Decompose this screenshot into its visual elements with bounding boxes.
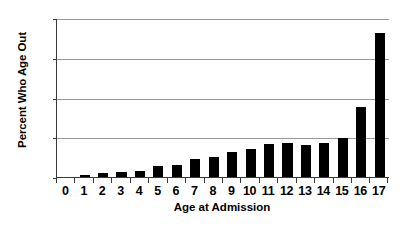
x-axis-tick-label: 10	[240, 184, 258, 200]
x-axis-tick-label: 13	[296, 184, 314, 200]
x-axis-tick-mark	[333, 178, 334, 183]
bar	[80, 175, 90, 177]
x-axis-tick-label: 7	[185, 184, 203, 200]
bar-slot	[205, 19, 223, 177]
bar	[246, 149, 256, 177]
x-axis-tick-mark	[259, 178, 260, 183]
plot-area	[56, 19, 389, 178]
bar-slot	[241, 19, 259, 177]
bar-slot	[131, 19, 149, 177]
x-axis-tick-label: 11	[259, 184, 277, 200]
bar	[319, 143, 329, 177]
x-axis-tick-mark	[167, 178, 168, 183]
x-axis-tick-label: 9	[222, 184, 240, 200]
x-axis-tick-mark	[93, 178, 94, 183]
x-axis-tick-label: 16	[351, 184, 369, 200]
x-axis-tick-label: 15	[333, 184, 351, 200]
bar-slot	[352, 19, 370, 177]
x-axis-tick-mark	[277, 178, 278, 183]
bar-slot	[297, 19, 315, 177]
x-axis-title: Age at Admission	[56, 201, 388, 213]
x-axis-tick-label: 14	[314, 184, 332, 200]
x-axis-tick-labels: 01234567891011121314151617	[56, 184, 388, 200]
bar-slot	[75, 19, 93, 177]
x-axis-tick-label: 12	[277, 184, 295, 200]
bar	[153, 166, 163, 177]
x-axis-tick-mark	[314, 178, 315, 183]
chart-figure: Percent Who Age Out 015304560 0123456789…	[0, 0, 403, 236]
bar	[264, 144, 274, 177]
bar-slot	[278, 19, 296, 177]
x-axis-tick-mark	[351, 178, 352, 183]
bar	[98, 173, 108, 177]
x-axis-tick-mark	[74, 178, 75, 183]
bar-slot	[186, 19, 204, 177]
x-axis-tick-mark	[130, 178, 131, 183]
bar-slot	[260, 19, 278, 177]
bar-slot	[334, 19, 352, 177]
x-axis-tick-label: 6	[167, 184, 185, 200]
x-axis-tick-label: 3	[111, 184, 129, 200]
bar-slot	[57, 19, 75, 177]
x-axis-tick-label: 1	[74, 184, 92, 200]
x-axis-tick-mark	[148, 178, 149, 183]
x-axis-tick-label: 8	[204, 184, 222, 200]
bar-slot	[112, 19, 130, 177]
bar	[301, 145, 311, 177]
x-axis-tick-label: 2	[93, 184, 111, 200]
bar	[190, 159, 200, 177]
y-axis-title: Percent Who Age Out	[16, 0, 28, 180]
x-axis-tick-label: 4	[130, 184, 148, 200]
x-axis-tick-label: 0	[56, 184, 74, 200]
x-axis-tick-mark	[204, 178, 205, 183]
x-axis-tick-mark	[222, 178, 223, 183]
bar	[135, 171, 145, 177]
bar-slot	[94, 19, 112, 177]
bar-slot	[149, 19, 167, 177]
bar	[282, 143, 292, 177]
bar-slot	[315, 19, 333, 177]
x-axis-tick-label: 5	[148, 184, 166, 200]
bar	[116, 172, 126, 177]
x-axis-tick-mark	[296, 178, 297, 183]
x-axis-tick-mark	[56, 178, 57, 183]
x-axis-tick-mark	[185, 178, 186, 183]
x-axis-tick-mark	[369, 178, 370, 183]
x-axis-tick-label: 17	[369, 184, 387, 200]
bar-slot	[370, 19, 388, 177]
bar-series	[57, 19, 389, 177]
bar	[356, 107, 366, 177]
x-axis-tick-mark	[111, 178, 112, 183]
x-axis-tick-mark	[240, 178, 241, 183]
bar-slot	[168, 19, 186, 177]
bar	[375, 33, 385, 177]
bar	[338, 138, 348, 177]
bar	[209, 157, 219, 177]
bar	[172, 165, 182, 177]
bar	[227, 152, 237, 177]
x-axis-tick-mark	[387, 178, 388, 183]
bar-slot	[223, 19, 241, 177]
